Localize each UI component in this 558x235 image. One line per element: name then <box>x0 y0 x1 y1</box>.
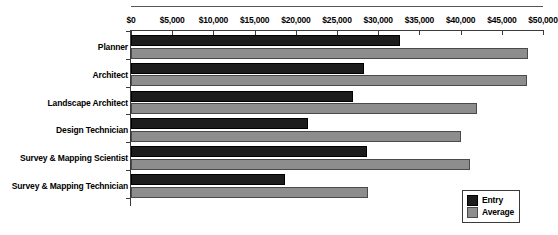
bar-average <box>131 75 527 86</box>
x-tick-mark <box>502 30 503 35</box>
x-tick-mark <box>378 30 379 35</box>
y-tick-mark <box>126 198 131 199</box>
x-tick-mark <box>461 30 462 35</box>
legend-item-average: Average <box>467 207 514 218</box>
x-tick-mark <box>255 30 256 35</box>
x-tick-mark <box>213 30 214 35</box>
x-tick-mark <box>131 30 132 35</box>
legend-swatch-entry-icon <box>467 195 478 206</box>
bar-average <box>131 131 461 142</box>
legend-label-average: Average <box>482 208 514 217</box>
legend-label-entry: Entry <box>482 196 503 205</box>
legend-item-entry: Entry <box>467 195 514 206</box>
bar-average <box>131 159 470 170</box>
y-tick-mark <box>126 31 131 32</box>
legend-swatch-average-icon <box>467 207 478 218</box>
bar-entry <box>131 174 285 185</box>
x-tick-mark <box>337 30 338 35</box>
y-tick-mark <box>126 59 131 60</box>
bar-entry <box>131 35 400 46</box>
y-tick-mark <box>126 142 131 143</box>
bar-entry <box>131 63 364 74</box>
x-tick-mark <box>172 30 173 35</box>
bar-average <box>131 187 368 198</box>
x-tick-mark <box>296 30 297 35</box>
y-tick-mark <box>126 87 131 88</box>
x-tick-mark <box>543 30 544 35</box>
y-tick-mark <box>126 114 131 115</box>
bar-entry <box>131 91 353 102</box>
chart-legend: Entry Average <box>462 190 520 223</box>
bar-average <box>131 48 528 59</box>
bar-average <box>131 103 477 114</box>
y-tick-mark <box>126 170 131 171</box>
bar-entry <box>131 118 308 129</box>
x-tick-mark <box>419 30 420 35</box>
bar-entry <box>131 146 367 157</box>
